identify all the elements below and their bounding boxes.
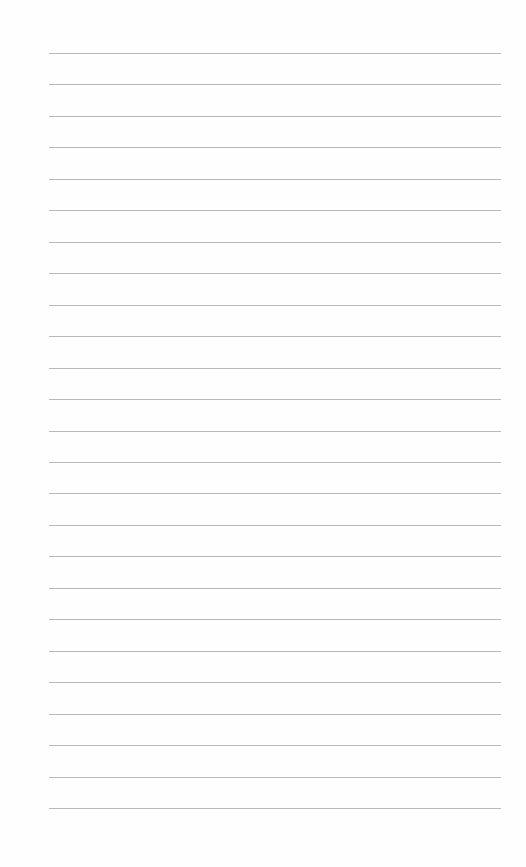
ruled-line: [49, 588, 501, 589]
ruled-line: [49, 273, 501, 274]
ruled-line: [49, 462, 501, 463]
ruled-line: [49, 147, 501, 148]
ruled-line: [49, 651, 501, 652]
ruled-line: [49, 525, 501, 526]
ruled-line: [49, 179, 501, 180]
ruled-line: [49, 745, 501, 746]
lined-paper-page: [0, 0, 526, 867]
ruled-line: [49, 493, 501, 494]
ruled-line: [49, 682, 501, 683]
ruled-line: [49, 714, 501, 715]
ruled-line: [49, 210, 501, 211]
ruled-line: [49, 53, 501, 54]
ruled-line: [49, 619, 501, 620]
ruled-line: [49, 116, 501, 117]
ruled-line: [49, 84, 501, 85]
ruled-line: [49, 556, 501, 557]
ruled-line: [49, 431, 501, 432]
ruled-line: [49, 305, 501, 306]
ruled-line: [49, 242, 501, 243]
ruled-line: [49, 399, 501, 400]
ruled-line: [49, 368, 501, 369]
ruled-line: [49, 777, 501, 778]
ruled-line: [49, 336, 501, 337]
ruled-line: [49, 808, 501, 809]
